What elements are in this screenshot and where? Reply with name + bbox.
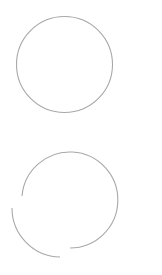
arc-upper-segment bbox=[22, 152, 118, 248]
broken-circle-shape bbox=[12, 152, 118, 257]
arc-lower-left-segment bbox=[12, 208, 60, 257]
canvas bbox=[0, 0, 162, 275]
circle-shape bbox=[17, 17, 113, 113]
